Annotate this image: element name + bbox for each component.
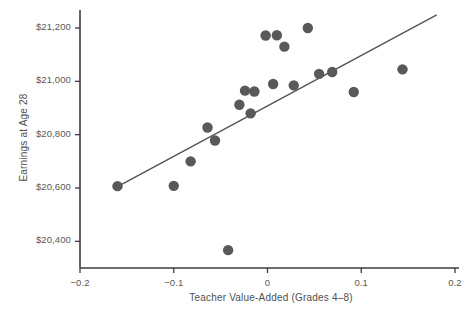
- data-point: [185, 156, 195, 166]
- data-point: [245, 108, 255, 118]
- data-point: [240, 85, 250, 95]
- data-point: [169, 181, 179, 191]
- y-tick-label: $20,800: [36, 128, 71, 139]
- data-point: [268, 79, 278, 89]
- data-point: [234, 100, 244, 110]
- data-point: [272, 30, 282, 40]
- data-point: [349, 87, 359, 97]
- data-point: [223, 245, 233, 255]
- data-point: [210, 135, 220, 145]
- x-tick-label: 0.1: [331, 277, 391, 288]
- y-axis-title: Earnings at Age 28: [18, 68, 29, 208]
- data-points: [112, 23, 407, 256]
- x-tick-label: 0.2: [425, 277, 466, 288]
- data-point: [397, 64, 407, 74]
- y-tick-label: $21,000: [36, 74, 71, 85]
- data-point: [314, 69, 324, 79]
- regression-line: [118, 15, 437, 186]
- x-tick-label: −0.2: [50, 277, 110, 288]
- x-axis-title: Teacher Value-Added (Grades 4–8): [80, 292, 462, 303]
- y-tick-label: $21,200: [36, 21, 71, 32]
- x-tick-label: 0: [238, 277, 298, 288]
- data-point: [303, 23, 313, 33]
- data-point: [260, 30, 270, 40]
- data-point: [249, 86, 259, 96]
- data-point: [112, 181, 122, 191]
- data-point: [279, 41, 289, 51]
- data-point: [327, 67, 337, 77]
- data-point: [289, 80, 299, 90]
- x-tick-label: −0.1: [144, 277, 204, 288]
- data-point: [202, 122, 212, 132]
- y-tick-label: $20,600: [36, 181, 71, 192]
- chart-axes: [75, 10, 459, 273]
- y-tick-label: $20,400: [36, 234, 71, 245]
